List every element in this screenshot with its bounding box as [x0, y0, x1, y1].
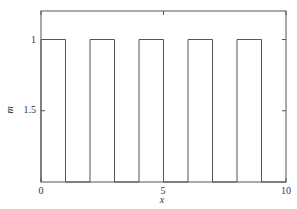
pulse-chart: 0 5 10 1 1.5 x m — [0, 0, 297, 209]
x-tick-label-0: 0 — [39, 185, 44, 196]
y-axis-label: m — [4, 106, 15, 113]
y-tick-label-1-5: 1.5 — [24, 104, 37, 115]
x-axis-label: x — [159, 194, 165, 205]
x-tick-label-10: 10 — [281, 185, 291, 196]
series-line-0 — [41, 40, 286, 183]
y-tick-label-1: 1 — [31, 34, 36, 45]
pulse-series — [41, 40, 286, 183]
